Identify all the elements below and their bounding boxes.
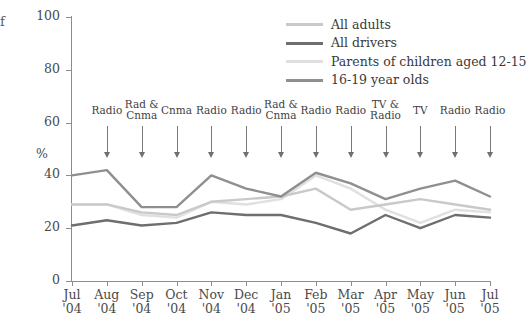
campaign-arrow-head [174,152,180,158]
campaign-arrow-shaft [281,126,282,152]
legend-item[interactable]: 16-19 year olds [286,72,527,89]
campaign-arrow-shaft [107,126,108,152]
campaign-arrow-head [104,152,110,158]
campaign-arrow-head [243,152,249,158]
legend-label: All adults [331,18,391,32]
campaign-arrow-head [487,152,493,158]
series-line-16-19-year-olds [72,170,490,207]
campaign-arrow-shaft [316,126,317,152]
campaign-arrow-shaft [455,126,456,152]
campaign-arrow-head [417,152,423,158]
campaign-arrow-shaft [177,126,178,152]
legend: All adultsAll driversParents of children… [286,16,527,90]
legend-item[interactable]: Parents of children aged 12-15 [286,53,527,70]
legend-swatch-icon [286,23,323,26]
campaign-arrow-shaft [420,126,421,152]
campaign-arrow-shaft [211,126,212,152]
campaign-label-line1: Radio [460,105,520,116]
campaign-arrow-head [208,152,214,158]
legend-swatch-icon [286,42,323,45]
legend-label: 16-19 year olds [331,73,429,87]
legend-item[interactable]: All adults [286,16,527,33]
campaign-arrow-head [348,152,354,158]
legend-label: Parents of children aged 12-15 [331,55,527,69]
campaign-arrow-head [452,152,458,158]
campaign-arrow-shaft [142,126,143,152]
series-line-all-drivers [72,212,490,233]
campaign-arrow-head [139,152,145,158]
legend-swatch-icon [286,60,323,63]
campaign-arrow-shaft [246,126,247,152]
campaign-arrow-head [278,152,284,158]
campaign-arrow-head [313,152,319,158]
campaign-label: Radio [460,105,520,116]
legend-swatch-icon [286,79,323,82]
campaign-arrow-shaft [490,126,491,152]
campaign-arrow-shaft [386,126,387,152]
series-line-all-adults [72,189,490,215]
campaign-arrow-shaft [351,126,352,152]
campaign-arrow-head [383,152,389,158]
legend-label: All drivers [331,36,397,50]
legend-item[interactable]: All drivers [286,35,527,52]
